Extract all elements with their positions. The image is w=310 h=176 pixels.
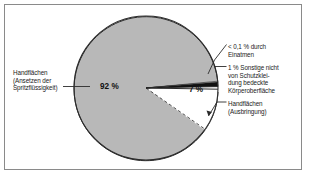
slice-value-major: 92 %: [100, 82, 119, 91]
pie-chart-figure: Handflächen (Ansetzen der Spritzflüssigk…: [0, 0, 310, 176]
slice-value-minor: 7 %: [189, 85, 203, 94]
leader-line-einatmen: [215, 45, 227, 61]
callout-handflaechen-ansetzen: Handflächen (Ansetzen der Spritzflüssigk…: [13, 69, 73, 92]
callout-sonstige-koerperoberflaeche: 1 % Sonstige nicht von Schutzklei- dung …: [228, 64, 304, 94]
callout-einatmen: < 0,1 % durch Einatmen: [228, 43, 300, 58]
callout-handflaechen-ausbringung: Handflächen (Ausbringung): [228, 100, 300, 115]
